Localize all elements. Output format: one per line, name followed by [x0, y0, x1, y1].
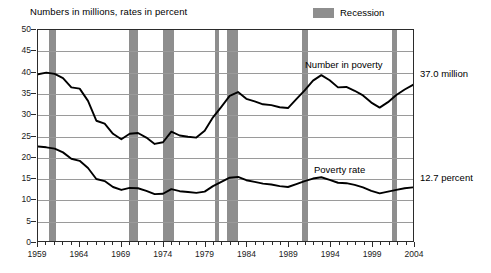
x-tick-mark [87, 242, 88, 245]
x-tick-mark [171, 242, 172, 245]
y-tick-label: 30 [22, 109, 31, 119]
y-axis: 05101520253035404550 [0, 29, 35, 242]
x-tick-mark [364, 242, 365, 245]
x-tick-mark [255, 242, 256, 245]
x-tick-mark [380, 242, 381, 245]
x-tick-label: 1979 [195, 249, 214, 259]
series-label-poverty-rate: Poverty rate [314, 164, 365, 175]
y-tick-mark [31, 50, 36, 51]
y-tick-mark [31, 72, 36, 73]
y-tick-mark [31, 157, 36, 158]
x-tick-mark [339, 242, 340, 245]
y-tick-mark [31, 136, 36, 137]
x-tick-label: 1994 [321, 249, 340, 259]
x-tick-mark [406, 242, 407, 245]
x-tick-mark [138, 242, 139, 245]
series-line-number-in-poverty [38, 73, 413, 144]
x-tick-mark [96, 242, 97, 245]
x-tick-mark [205, 242, 206, 247]
y-tick-label: 10 [22, 194, 31, 204]
y-tick-mark [31, 93, 36, 94]
legend-label-recession: Recession [340, 7, 384, 18]
x-tick-mark [213, 242, 214, 245]
y-tick-mark [31, 242, 36, 243]
x-tick-mark [297, 242, 298, 245]
x-tick-mark [188, 242, 189, 245]
x-tick-mark [230, 242, 231, 245]
x-tick-label: 2004 [405, 249, 424, 259]
x-tick-mark [112, 242, 113, 245]
x-tick-mark [179, 242, 180, 245]
x-tick-label: 1989 [279, 249, 298, 259]
poverty-chart-figure: Numbers in millions, rates in percent Re… [0, 0, 491, 273]
x-tick-mark [104, 242, 105, 245]
x-tick-mark [238, 242, 239, 245]
x-tick-mark [414, 242, 415, 247]
y-tick-label: 35 [22, 88, 31, 98]
x-tick-label: 1964 [69, 249, 88, 259]
y-tick-label: 50 [22, 24, 31, 34]
x-tick-mark [37, 242, 38, 247]
y-tick-mark [31, 114, 36, 115]
x-tick-mark [221, 242, 222, 245]
y-tick-mark [31, 178, 36, 179]
y-tick-label: 45 [22, 45, 31, 55]
x-tick-mark [389, 242, 390, 245]
endpoint-callout-rate: 12.7 percent [420, 172, 473, 183]
y-tick-label: 40 [22, 67, 31, 77]
chart-caption: Numbers in millions, rates in percent [30, 6, 187, 17]
x-tick-label: 1984 [237, 249, 256, 259]
y-tick-mark [31, 199, 36, 200]
x-tick-mark [154, 242, 155, 245]
x-axis-ticks [37, 242, 414, 247]
x-tick-mark [196, 242, 197, 245]
x-tick-mark [71, 242, 72, 245]
x-tick-mark [347, 242, 348, 245]
x-tick-label: 1974 [153, 249, 172, 259]
x-tick-mark [288, 242, 289, 247]
x-axis-labels: 1959196419691974197919841989199419992004 [0, 249, 491, 263]
x-tick-mark [305, 242, 306, 245]
x-tick-mark [146, 242, 147, 245]
x-tick-mark [246, 242, 247, 247]
x-tick-mark [397, 242, 398, 245]
recession-swatch-icon [313, 8, 334, 18]
series-label-number-in-poverty: Number in poverty [305, 59, 383, 70]
x-tick-mark [79, 242, 80, 247]
x-tick-label: 1969 [111, 249, 130, 259]
x-tick-mark [263, 242, 264, 245]
legend: Recession [313, 7, 384, 18]
x-tick-mark [280, 242, 281, 245]
x-tick-label: 1959 [28, 249, 47, 259]
endpoint-callout-number: 37.0 million [420, 68, 468, 79]
y-tick-label: 15 [22, 173, 31, 183]
y-tick-mark [31, 29, 36, 30]
x-tick-mark [163, 242, 164, 247]
x-tick-mark [330, 242, 331, 247]
x-tick-mark [62, 242, 63, 245]
x-tick-mark [372, 242, 373, 247]
x-tick-mark [272, 242, 273, 245]
x-tick-mark [355, 242, 356, 245]
x-tick-mark [54, 242, 55, 245]
x-tick-mark [129, 242, 130, 245]
x-tick-label: 1999 [363, 249, 382, 259]
x-tick-mark [322, 242, 323, 245]
y-tick-mark [31, 221, 36, 222]
x-tick-mark [313, 242, 314, 245]
x-tick-mark [121, 242, 122, 247]
y-tick-label: 25 [22, 131, 31, 141]
x-tick-mark [45, 242, 46, 245]
y-tick-label: 20 [22, 152, 31, 162]
